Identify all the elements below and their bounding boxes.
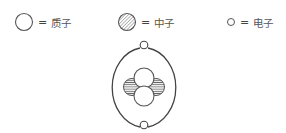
proton-bottom — [134, 86, 154, 106]
electron-bottom — [140, 121, 148, 129]
electron-top — [140, 41, 148, 49]
nucleus — [124, 68, 165, 106]
atom-diagram — [0, 0, 286, 133]
proton-top — [134, 68, 154, 88]
